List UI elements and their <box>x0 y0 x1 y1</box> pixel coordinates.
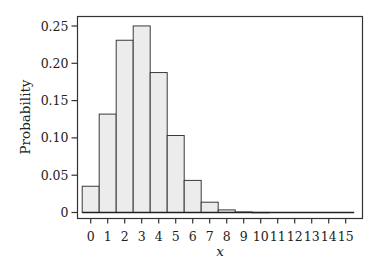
x-axis: 0123456789101112131415 <box>87 219 354 244</box>
x-tick-label: 8 <box>223 229 231 244</box>
x-tick-label: 11 <box>270 229 286 244</box>
y-tick-label: 0.10 <box>41 130 69 145</box>
y-tick-label: 0.20 <box>41 56 69 71</box>
bar-x-2 <box>116 40 133 212</box>
x-tick-label: 9 <box>240 229 248 244</box>
x-tick-label: 12 <box>287 229 303 244</box>
y-tick-label: 0 <box>61 205 69 220</box>
x-tick-label: 7 <box>206 229 214 244</box>
y-tick-label: 0.05 <box>41 168 69 183</box>
x-tick-label: 2 <box>121 229 129 244</box>
x-tick-label: 4 <box>155 229 163 244</box>
bar-x-0 <box>82 186 99 212</box>
x-tick-label: 0 <box>87 229 95 244</box>
bars-group <box>82 26 269 213</box>
bar-x-3 <box>133 26 150 213</box>
x-axis-title: x <box>216 243 224 259</box>
bar-x-6 <box>184 180 201 212</box>
x-tick-label: 1 <box>104 229 112 244</box>
probability-bar-chart: 00.050.100.150.200.25 012345678910111213… <box>0 0 381 269</box>
x-tick-label: 14 <box>321 229 337 244</box>
y-tick-label: 0.25 <box>41 19 69 34</box>
y-tick-label: 0.15 <box>41 93 69 108</box>
bar-x-1 <box>99 114 116 212</box>
x-tick-label: 6 <box>189 229 197 244</box>
x-tick-label: 3 <box>138 229 146 244</box>
x-tick-label: 10 <box>253 229 269 244</box>
bar-x-4 <box>150 73 167 213</box>
x-tick-label: 15 <box>338 229 354 244</box>
y-axis-title: Probability <box>17 79 33 154</box>
bar-x-7 <box>201 202 218 212</box>
x-tick-label: 5 <box>172 229 180 244</box>
y-axis: 00.050.100.150.200.25 <box>41 19 78 221</box>
bar-x-5 <box>167 136 184 213</box>
x-tick-label: 13 <box>304 229 320 244</box>
